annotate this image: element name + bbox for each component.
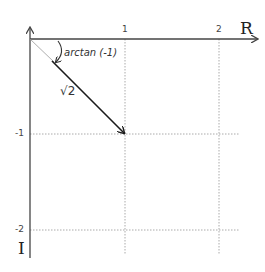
x-tick-1: 1 <box>122 25 128 34</box>
angle-label: arctan (-1) <box>64 48 117 58</box>
angle-arc <box>56 41 62 62</box>
y-tick-minus-1: -1 <box>15 129 24 138</box>
y-tick-minus-2: -2 <box>15 225 24 234</box>
vector-guide <box>30 39 54 62</box>
magnitude-label: √2 <box>60 85 75 97</box>
complex-plane-diagram <box>0 0 265 272</box>
imaginary-axis-label: I <box>18 240 25 257</box>
x-tick-2: 2 <box>216 25 222 34</box>
real-axis-label: R <box>240 20 253 37</box>
